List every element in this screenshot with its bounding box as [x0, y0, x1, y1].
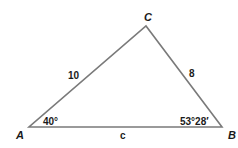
triangle-diagram: C A B 10 8 c 40° 53°28′ [0, 0, 238, 148]
side-label-ac: 10 [68, 71, 79, 81]
vertex-label-c: C [144, 12, 152, 23]
side-label-bc: 8 [189, 69, 195, 79]
angle-label-a: 40° [43, 117, 58, 127]
side-label-ab: c [120, 131, 126, 141]
vertex-label-a: A [16, 130, 24, 141]
vertex-label-b: B [228, 130, 236, 141]
angle-label-b: 53°28′ [180, 117, 209, 127]
